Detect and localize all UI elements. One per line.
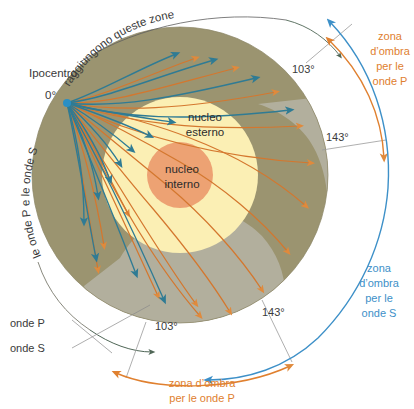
outer-core-label-line2: esterno [186,126,224,138]
tick-103-bottom [126,322,146,378]
s-shadow-line-4: onde S [362,307,397,319]
p-shadow-bottom-line-2: per le onde P [169,392,234,404]
s-shadow-line-2: d’ombra [359,277,400,289]
angle-103-bottom: 103° [155,320,178,332]
seismic-diagram-root: Ipocentro 0° raggiungono queste zone le … [0,0,414,409]
s-shadow-line-1: zona [367,262,392,274]
p-shadow-line-2: d’ombra [370,45,411,57]
diagram-svg: Ipocentro 0° raggiungono queste zone le … [0,0,414,409]
p-shadow-label-right: zona d’ombra per le onde P [370,30,411,87]
angle-143-top: 143° [326,131,349,143]
legend-item-onde-p: onde P [10,317,45,329]
top-caption-arrow [286,20,340,56]
angle-103-top: 103° [292,63,315,75]
p-shadow-line-3: per le [376,60,404,72]
inner-core-label-line1: nucleo [165,163,199,175]
inner-core-layer [147,142,213,208]
legend-leader-p [72,320,112,353]
hypocenter-dot [63,99,71,107]
legend-leader-s [72,305,150,348]
p-shadow-bottom-line-1: zona d’ombra [169,377,237,389]
legend-item-onde-s: onde S [10,342,45,354]
angle-143-bottom: 143° [262,306,285,318]
p-shadow-line-4: onde P [373,75,408,87]
p-shadow-label-bottom: zona d’ombra per le onde P [169,377,237,404]
s-shadow-line-3: per le [365,292,393,304]
outer-core-label-line1: nucleo [188,111,222,123]
p-shadow-line-1: zona [378,30,403,42]
inner-core-label-line2: interno [164,178,199,190]
hypocenter-angle-label: 0° [45,89,56,101]
